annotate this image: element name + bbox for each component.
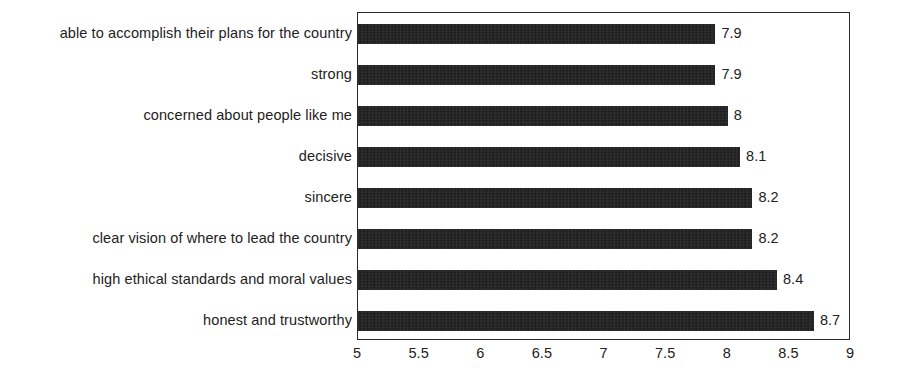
x-tick-label: 5 bbox=[353, 344, 361, 362]
category-label: strong bbox=[0, 66, 352, 82]
bar-value-label: 8.4 bbox=[783, 269, 803, 290]
bar-row: 8.2 bbox=[358, 188, 851, 208]
bar bbox=[358, 65, 715, 85]
x-tick-label: 8.5 bbox=[778, 344, 798, 362]
bar-row: 7.9 bbox=[358, 65, 851, 85]
category-label: clear vision of where to lead the countr… bbox=[0, 230, 352, 246]
category-label: decisive bbox=[0, 148, 352, 164]
bar-value-label: 7.9 bbox=[721, 64, 741, 85]
bar bbox=[358, 229, 752, 249]
category-axis: able to accomplish their plans for the c… bbox=[0, 12, 352, 340]
bar-row: 8.7 bbox=[358, 311, 851, 331]
x-tick-label: 9 bbox=[846, 344, 854, 362]
bar-row: 8.4 bbox=[358, 270, 851, 290]
bar-value-label: 7.9 bbox=[721, 23, 741, 44]
bar bbox=[358, 106, 728, 126]
bar-value-label: 8.2 bbox=[758, 187, 778, 208]
x-tick-label: 6.5 bbox=[532, 344, 552, 362]
x-tick-label: 5.5 bbox=[409, 344, 429, 362]
x-tick-label: 7.5 bbox=[655, 344, 675, 362]
bar-row: 8.2 bbox=[358, 229, 851, 249]
bar-value-label: 8.1 bbox=[746, 146, 766, 167]
bar-chart: able to accomplish their plans for the c… bbox=[0, 0, 900, 385]
plot-area: 7.97.988.18.28.28.48.7 bbox=[357, 12, 850, 340]
bar-row: 8 bbox=[358, 106, 851, 126]
x-tick-label: 7 bbox=[599, 344, 607, 362]
x-tick-label: 8 bbox=[723, 344, 731, 362]
bar bbox=[358, 24, 715, 44]
bar-value-label: 8 bbox=[734, 105, 742, 126]
x-axis: 55.566.577.588.59 bbox=[357, 344, 850, 370]
category-label: high ethical standards and moral values bbox=[0, 271, 352, 287]
bar bbox=[358, 147, 740, 167]
bar-value-label: 8.2 bbox=[758, 228, 778, 249]
category-label: sincere bbox=[0, 189, 352, 205]
bar bbox=[358, 311, 814, 331]
x-tick-label: 6 bbox=[476, 344, 484, 362]
bar-value-label: 8.7 bbox=[820, 310, 840, 331]
category-label: concerned about people like me bbox=[0, 107, 352, 123]
bar-row: 7.9 bbox=[358, 24, 851, 44]
bar bbox=[358, 270, 777, 290]
category-label: honest and trustworthy bbox=[0, 312, 352, 328]
category-label: able to accomplish their plans for the c… bbox=[0, 25, 352, 41]
bars-container: 7.97.988.18.28.28.48.7 bbox=[358, 13, 849, 339]
bar bbox=[358, 188, 752, 208]
bar-row: 8.1 bbox=[358, 147, 851, 167]
